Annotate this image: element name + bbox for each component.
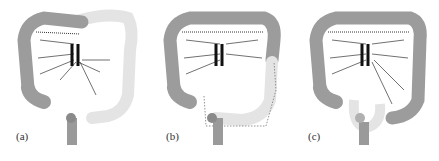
panel-c: (c) <box>292 0 438 161</box>
panel-label-a: (a) <box>16 130 28 142</box>
panel-b: (b) <box>146 0 292 161</box>
panel-label-c: (c) <box>308 130 320 142</box>
panel-a: (a) <box>0 0 146 161</box>
panel-label-b: (b) <box>166 130 179 142</box>
